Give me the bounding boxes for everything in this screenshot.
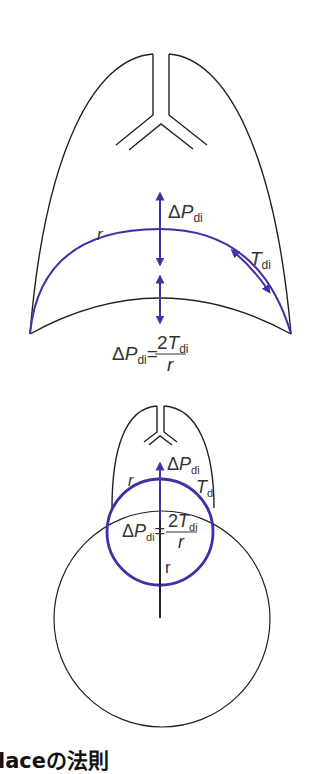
top-lung: r ΔPdi Tdi ΔPdi= 2Tdi r	[30, 54, 291, 375]
laplace-formula-top: ΔPdi= 2Tdi r	[112, 332, 189, 375]
small-bronchus-inner	[149, 436, 172, 445]
bottom-lung: r ΔPdi Td ΔPdi= 2Tdi r r	[54, 406, 270, 727]
trachea-left	[116, 54, 153, 145]
small-trachea-right	[164, 406, 177, 442]
label-r: r	[97, 225, 104, 244]
label-di-small: di	[191, 464, 200, 476]
label-P: P	[181, 201, 194, 222]
svg-text:r: r	[167, 354, 174, 375]
svg-text:ΔPdi=: ΔPdi=	[112, 343, 158, 367]
lung-outline-left	[30, 54, 153, 334]
svg-text:Td: Td	[196, 477, 213, 499]
small-lung-outline-left	[112, 406, 157, 508]
svg-text:ΔPdi: ΔPdi	[168, 201, 203, 225]
label-delta: Δ	[168, 201, 181, 222]
svg-text:2Tdi: 2Tdi	[157, 332, 189, 356]
trachea-right	[169, 54, 207, 145]
label-T-sub-small: d	[207, 487, 213, 499]
label-delta-small: Δ	[167, 454, 179, 474]
radius-label: r	[165, 558, 171, 577]
svg-text:r: r	[178, 532, 185, 552]
label-T-sub: di	[262, 258, 271, 272]
large-circle	[54, 511, 270, 727]
label-r-small: r	[128, 472, 134, 489]
label-P-small: P	[179, 454, 191, 474]
caption-laplace-law: laceの法則	[0, 744, 109, 774]
svg-text:ΔPdi=: ΔPdi=	[122, 521, 165, 543]
svg-text:ΔPdi: ΔPdi	[167, 454, 200, 476]
svg-text:Tdi: Tdi	[250, 248, 271, 272]
bronchus-inner	[129, 124, 193, 150]
small-trachea-left	[144, 406, 157, 442]
label-di: di	[193, 211, 202, 225]
svg-text:2Tdi: 2Tdi	[168, 511, 198, 533]
